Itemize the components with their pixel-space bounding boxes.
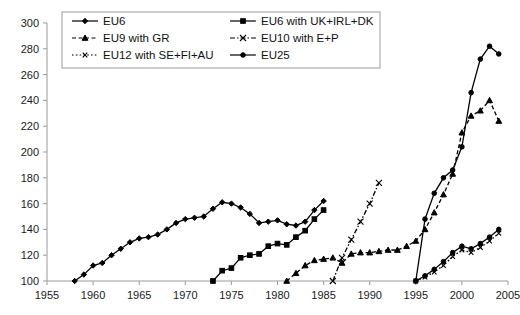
y-axis-tick-labels: 100120140160180200220240260280300 [21,17,47,287]
data-point-marker [211,279,216,284]
data-point-marker [312,217,317,222]
data-point-marker [241,19,246,24]
data-point-marker [450,168,455,173]
series-eu9-with-gr [284,97,502,283]
data-point-marker [146,234,151,239]
data-point-marker [155,232,160,237]
data-point-marker [266,244,271,249]
data-point-marker [431,210,437,215]
legend-label: EU25 [261,49,290,61]
y-tick-label: 120 [21,249,39,261]
x-tick-label: 1985 [311,289,335,301]
data-point-marker [241,53,246,58]
data-point-marker [468,113,474,118]
y-tick-label: 100 [21,275,39,287]
legend-label: EU10 with E+P [261,32,339,44]
data-point-marker [303,228,308,233]
series-eu25-aggregate-steep [414,44,502,283]
x-tick-label: 1965 [127,289,151,301]
data-point-marker [330,255,336,260]
series-eu6 [72,198,326,283]
data-point-marker [376,180,382,186]
data-point-marker [137,236,142,241]
data-point-marker [367,201,373,207]
series-path [75,201,324,281]
data-point-marker [220,268,225,273]
y-tick-label: 280 [21,43,39,55]
data-point-marker [414,279,419,284]
data-point-marker [469,90,474,95]
data-point-marker [357,219,363,225]
x-axis-tick-labels: 1955196019651970197519801985199019952000… [35,281,520,301]
data-point-marker [238,255,243,260]
chart-legend: EU6EU6 with UK+IRL+DKEU9 with GREU10 wit… [62,12,380,68]
data-point-marker [432,191,437,196]
x-tick-label: 1995 [404,289,428,301]
legend-label: EU6 with UK+IRL+DK [261,15,374,27]
data-point-marker [423,274,428,279]
x-tick-label: 2005 [496,289,520,301]
data-point-marker [432,267,437,272]
y-tick-label: 160 [21,198,39,210]
y-tick-label: 300 [21,17,39,29]
x-tick-label: 1955 [35,289,59,301]
x-tick-label: 1960 [81,289,105,301]
data-point-marker [348,237,354,243]
data-point-marker [441,192,447,197]
data-point-marker [248,253,253,258]
data-point-marker [229,201,234,206]
data-point-marker [257,252,262,257]
data-point-marker [496,52,501,57]
data-point-marker [478,241,483,246]
data-point-marker [183,216,188,221]
series-layer [72,44,502,284]
series-eu10-with-e-p [330,180,382,284]
data-point-marker [229,266,234,271]
data-point-marker [192,215,197,220]
data-point-marker [404,243,410,248]
chart-container: 100120140160180200220240260280300 195519… [0,0,520,315]
data-point-marker [275,241,280,246]
data-point-marker [311,257,317,262]
series-path [416,229,499,281]
y-tick-label: 220 [21,120,39,132]
y-tick-label: 240 [21,94,39,106]
series-path [416,46,499,281]
y-tick-label: 260 [21,69,39,81]
data-point-marker [284,222,289,227]
x-tick-label: 1990 [357,289,381,301]
data-point-marker [450,250,455,255]
data-point-marker [441,176,446,181]
data-point-marker [266,219,271,224]
data-point-marker [423,217,428,222]
line-chart: 100120140160180200220240260280300 195519… [0,0,520,315]
data-point-marker [460,145,465,150]
data-point-marker [293,223,298,228]
data-point-marker [496,118,502,123]
data-point-marker [302,263,308,268]
series-path [333,183,379,281]
series-eu25 [414,227,502,283]
y-tick-label: 200 [21,146,39,158]
x-tick-label: 1970 [173,289,197,301]
x-tick-label: 1975 [219,289,243,301]
data-point-marker [321,208,326,213]
y-tick-label: 180 [21,172,39,184]
data-point-marker [487,44,492,49]
x-tick-label: 2000 [450,289,474,301]
data-point-marker [441,259,446,264]
legend-label: EU9 with GR [103,32,169,44]
data-point-marker [496,227,501,232]
series-path [287,100,499,281]
data-point-marker [487,97,493,102]
legend-label: EU6 [103,15,125,27]
y-tick-label: 140 [21,223,39,235]
data-point-marker [275,218,280,223]
data-point-marker [294,235,299,240]
data-point-marker [460,244,465,249]
legend-label: EU12 with SE+FI+AU [103,49,214,61]
data-point-marker [478,57,483,62]
x-tick-label: 1980 [265,289,289,301]
data-point-marker [469,246,474,251]
data-point-marker [487,235,492,240]
